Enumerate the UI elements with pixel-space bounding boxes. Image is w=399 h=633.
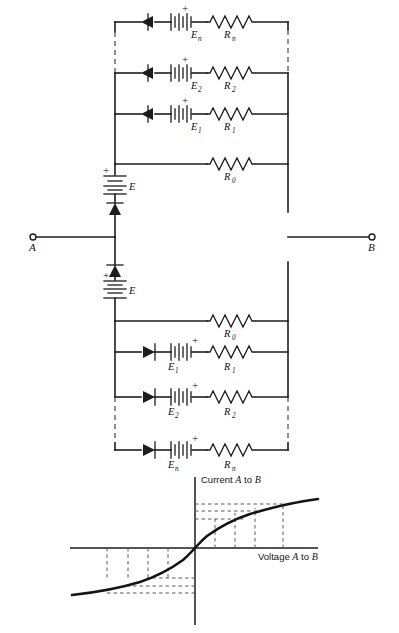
plus-sign-lower-en: + xyxy=(192,432,198,444)
svg-text:Current A to B: Current A to B xyxy=(201,474,261,485)
label-resistor-rn: R xyxy=(223,29,231,40)
label-resistor-r0-upper: R xyxy=(223,171,231,182)
branch-lower-r0: R 0 xyxy=(115,315,288,342)
battery-E-lower: + E xyxy=(103,269,136,298)
branch-lower-e2: + E 2 R 2 xyxy=(115,379,288,420)
label-resistor-r0-lower: R xyxy=(223,328,231,339)
diode-left-icon xyxy=(141,65,153,81)
label-resistor-r0-upper-sub: 0 xyxy=(232,177,236,185)
label-battery-e1-sub: 1 xyxy=(198,127,202,135)
branch-upper-e1: + E 1 R 1 xyxy=(115,94,288,135)
ylabel-to: to xyxy=(244,474,252,485)
plus-sign-lower-e2: + xyxy=(192,379,198,391)
upper-ladder: + E n R n + E 2 R 2 xyxy=(115,2,288,212)
label-battery-E-lower: E xyxy=(128,285,136,296)
label-resistor-lower-rn: R xyxy=(223,459,231,470)
terminal-B-label: B xyxy=(368,241,375,253)
branch-lower-e1: + E 1 R 1 xyxy=(115,334,288,375)
label-resistor-lower-r2-sub: 2 xyxy=(232,412,236,420)
diode-right-icon xyxy=(143,344,155,360)
branch-lower-en: + E n R n xyxy=(115,432,288,473)
label-resistor-lower-rn-sub: n xyxy=(232,465,236,473)
branch-upper-r0: R 0 xyxy=(115,158,288,185)
plus-sign-e2: + xyxy=(182,53,188,65)
label-battery-e1: E xyxy=(190,121,198,132)
label-battery-lower-en-sub: n xyxy=(175,465,179,473)
figure-container: + E n R n + E 2 R 2 xyxy=(0,0,399,633)
branch-upper-e2: + E 2 R 2 xyxy=(115,53,288,94)
diode-left-icon xyxy=(141,14,153,30)
label-battery-e2-sub: 2 xyxy=(198,86,202,94)
xlabel-to: to xyxy=(301,551,309,562)
diode-right-icon xyxy=(143,389,155,405)
lower-ladder: R 0 + E 1 R 1 xyxy=(115,262,288,473)
label-resistor-r1-sub: 1 xyxy=(232,127,236,135)
ylabel-lead: Current xyxy=(201,474,233,485)
diode-right-icon xyxy=(143,442,155,458)
label-resistor-r0-lower-sub: 0 xyxy=(232,334,236,342)
label-resistor-r2: R xyxy=(223,80,231,91)
xlabel-lead: Voltage xyxy=(258,551,290,562)
label-resistor-r2-sub: 2 xyxy=(232,86,236,94)
svg-text:Voltage A to B: Voltage A to B xyxy=(258,551,318,562)
central-column: + E A + E xyxy=(28,164,375,321)
label-battery-lower-e1: E xyxy=(167,361,175,372)
plus-sign-e1: + xyxy=(182,94,188,106)
label-resistor-lower-r1-sub: 1 xyxy=(232,367,236,375)
terminal-A-label: A xyxy=(28,241,36,253)
plus-sign-en: + xyxy=(182,2,188,14)
plus-sign-E-upper: + xyxy=(103,164,109,176)
diode-up-icon-lower xyxy=(107,265,123,277)
chart-y-axis-label: Current A to B xyxy=(201,474,261,485)
construction-lines-positive xyxy=(195,504,285,548)
circuit-and-chart-svg: + E n R n + E 2 R 2 xyxy=(0,0,399,633)
diode-left-icon xyxy=(141,106,153,122)
label-battery-lower-e2: E xyxy=(167,406,175,417)
terminal-B-node[interactable] xyxy=(369,234,375,240)
label-resistor-r1: R xyxy=(223,121,231,132)
label-battery-lower-e1-sub: 1 xyxy=(175,367,179,375)
label-battery-lower-e2-sub: 2 xyxy=(175,412,179,420)
label-resistor-lower-r2: R xyxy=(223,406,231,417)
xlabel-b: B xyxy=(312,551,318,562)
plus-sign-lower-e1: + xyxy=(192,334,198,346)
label-battery-en: E xyxy=(190,29,198,40)
battery-E-upper: + E xyxy=(103,164,136,203)
label-battery-lower-en: E xyxy=(167,459,175,470)
diode-up-icon-upper xyxy=(107,203,123,237)
ylabel-b: B xyxy=(255,474,261,485)
terminal-A-node[interactable] xyxy=(30,234,36,240)
chart-x-axis-label: Voltage A to B xyxy=(258,551,318,562)
label-battery-E-upper: E xyxy=(128,181,136,192)
label-resistor-lower-r1: R xyxy=(223,361,231,372)
branch-upper-en: + E n R n xyxy=(115,2,288,43)
label-battery-e2: E xyxy=(190,80,198,91)
label-battery-en-sub: n xyxy=(198,35,202,43)
plus-sign-E-lower: + xyxy=(103,269,109,281)
label-resistor-rn-sub: n xyxy=(232,35,236,43)
iv-characteristic-chart: Current A to B Voltage A to B xyxy=(70,474,318,625)
